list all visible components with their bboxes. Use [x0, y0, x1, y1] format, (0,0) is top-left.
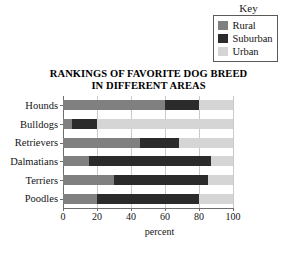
- gridline: [97, 96, 98, 208]
- bar-segment-urban: [208, 175, 234, 185]
- y-axis-category-label: Terriers: [0, 175, 58, 186]
- chart-plot-area: HoundsBulldogsRetrieversDalmatiansTerrie…: [0, 96, 297, 226]
- legend-item-suburban: Suburban: [218, 32, 272, 45]
- x-axis-tick-label: 80: [194, 211, 204, 222]
- bar-segment-urban: [199, 194, 233, 204]
- y-axis-category-label: Poodles: [0, 193, 58, 204]
- bar-segment-suburban: [72, 119, 98, 129]
- legend-swatch-rural: [218, 21, 228, 30]
- bar-segment-rural: [63, 175, 114, 185]
- chart-title: RANKINGS OF FAVORITE DOG BREED IN DIFFER…: [0, 68, 297, 91]
- bar-row: [63, 194, 233, 204]
- bar-segment-suburban: [97, 194, 199, 204]
- x-axis-tick-label: 100: [226, 211, 241, 222]
- bar-segment-suburban: [89, 156, 211, 166]
- legend-box: Rural Suburban Urban: [213, 15, 277, 62]
- bar-segment-urban: [199, 100, 233, 110]
- y-axis-category-label: Dalmatians: [0, 156, 58, 167]
- gridline: [233, 96, 234, 208]
- bar-segment-rural: [63, 194, 97, 204]
- y-axis-category-label: Retrievers: [0, 137, 58, 148]
- bar-row: [63, 119, 233, 129]
- x-axis-tick-label: 60: [160, 211, 170, 222]
- legend-swatch-urban: [218, 47, 228, 56]
- bar-segment-rural: [63, 100, 165, 110]
- bar-segment-suburban: [114, 175, 208, 185]
- bars-container: 020406080100: [63, 96, 233, 208]
- bar-segment-suburban: [140, 138, 179, 148]
- bar-row: [63, 175, 233, 185]
- x-axis-tick-label: 20: [92, 211, 102, 222]
- bar-row: [63, 156, 233, 166]
- legend-title: Key: [196, 2, 295, 14]
- bar-segment-rural: [63, 119, 72, 129]
- legend-label-urban: Urban: [232, 46, 258, 57]
- bar-segment-urban: [211, 156, 233, 166]
- y-axis-category-labels: HoundsBulldogsRetrieversDalmatiansTerrie…: [0, 96, 62, 208]
- x-axis-tick-label: 40: [126, 211, 136, 222]
- legend-label-rural: Rural: [232, 20, 255, 31]
- bar-segment-urban: [97, 119, 233, 129]
- y-axis-category-label: Bulldogs: [0, 119, 58, 130]
- bar-segment-rural: [63, 156, 89, 166]
- bar-segment-urban: [179, 138, 233, 148]
- legend-item-urban: Urban: [218, 45, 272, 58]
- gridline: [165, 96, 166, 208]
- x-axis-line: [63, 208, 233, 209]
- y-axis-line: [63, 96, 64, 208]
- legend-label-suburban: Suburban: [232, 33, 272, 44]
- x-axis-label: percent: [0, 226, 297, 237]
- legend-swatch-suburban: [218, 34, 228, 43]
- bar-segment-rural: [63, 138, 140, 148]
- legend-item-rural: Rural: [218, 19, 272, 32]
- gridline: [199, 96, 200, 208]
- x-axis-tick-label: 0: [61, 211, 66, 222]
- bar-row: [63, 100, 233, 110]
- chart-title-line-2: IN DIFFERENT AREAS: [0, 80, 297, 92]
- bar-row: [63, 138, 233, 148]
- y-axis-category-label: Hounds: [0, 100, 58, 111]
- bar-segment-suburban: [165, 100, 199, 110]
- gridline: [131, 96, 132, 208]
- legend: Key Rural Suburban Urban: [196, 2, 295, 62]
- chart-title-line-1: RANKINGS OF FAVORITE DOG BREED: [0, 68, 297, 80]
